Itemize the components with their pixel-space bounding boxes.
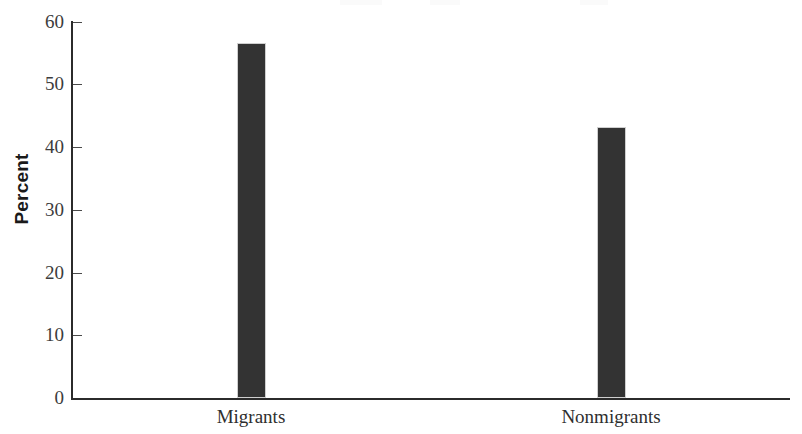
- scan-artifact: [580, 0, 608, 5]
- y-axis-tick-label: 60: [6, 12, 64, 31]
- bar-migrants[interactable]: [237, 43, 266, 398]
- bar-nonmigrants[interactable]: [597, 127, 626, 398]
- y-axis-tick-label: 10: [6, 325, 64, 344]
- y-axis-tick-label: 30: [6, 200, 64, 219]
- y-axis-tick-label: 40: [6, 137, 64, 156]
- y-axis-tick-label: 20: [6, 263, 64, 282]
- scan-artifact: [340, 0, 382, 5]
- y-axis-tick-label: 0: [6, 388, 64, 407]
- x-axis-line: [71, 398, 790, 400]
- y-axis-tick: [73, 84, 82, 85]
- y-axis-tick: [73, 147, 82, 148]
- x-axis-category-label-nonmigrants: Nonmigrants: [521, 404, 701, 430]
- y-axis-tick: [73, 210, 82, 211]
- x-axis-category-label-migrants: Migrants: [171, 404, 331, 430]
- y-axis-tick-label: 50: [6, 74, 64, 93]
- y-axis-tick: [73, 273, 82, 274]
- scan-artifact: [430, 0, 460, 5]
- y-axis-tick: [73, 335, 82, 336]
- bar-chart: Percent 60 50 40 30 20 10 0 Migrants Non…: [0, 0, 802, 434]
- y-axis-tick: [73, 22, 82, 23]
